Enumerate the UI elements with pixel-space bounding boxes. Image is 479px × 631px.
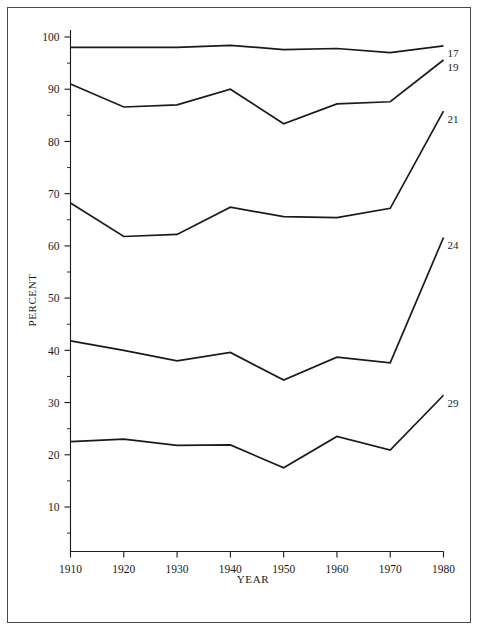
series-label-24: 24 — [448, 239, 460, 251]
series-label-19: 19 — [448, 61, 460, 73]
x-tick-label: 1960 — [325, 563, 348, 575]
x-tick-label: 1910 — [59, 563, 82, 575]
y-tick-label: 100 — [42, 31, 60, 43]
y-tick-label: 50 — [48, 292, 60, 304]
series-line-21 — [71, 111, 444, 236]
x-tick-label: 1970 — [379, 563, 402, 575]
chart-series-lines — [71, 45, 444, 467]
series-line-17 — [71, 45, 444, 52]
y-axis-title: PERCENT — [26, 273, 38, 326]
y-tick-label: 60 — [48, 240, 60, 252]
series-label-17: 17 — [448, 47, 460, 59]
series-line-29 — [71, 395, 444, 468]
x-tick-label: 1980 — [432, 563, 455, 575]
series-label-21: 21 — [448, 113, 459, 125]
chart-axes — [71, 30, 444, 552]
series-line-19 — [71, 60, 444, 124]
x-tick-label: 1930 — [166, 563, 189, 575]
x-axis-title: YEAR — [237, 573, 269, 585]
chart-series-labels: 1719212429 — [448, 47, 460, 408]
chart-page: 102030405060708090100 191019201930194019… — [0, 0, 479, 631]
x-tick-label: 1950 — [272, 563, 295, 575]
y-tick-label: 70 — [48, 188, 60, 200]
x-tick-label: 1920 — [112, 563, 135, 575]
y-tick-label: 20 — [48, 449, 60, 461]
y-axis-tick-labels: 102030405060708090100 — [42, 31, 60, 513]
y-tick-label: 80 — [48, 136, 60, 148]
y-tick-label: 30 — [48, 397, 60, 409]
y-tick-label: 90 — [48, 83, 60, 95]
line-chart: 102030405060708090100 191019201930194019… — [0, 0, 479, 631]
chart-ticks — [65, 37, 444, 558]
series-line-24 — [71, 238, 444, 381]
y-tick-label: 40 — [48, 345, 60, 357]
series-label-29: 29 — [448, 397, 460, 409]
y-tick-label: 10 — [48, 501, 60, 513]
